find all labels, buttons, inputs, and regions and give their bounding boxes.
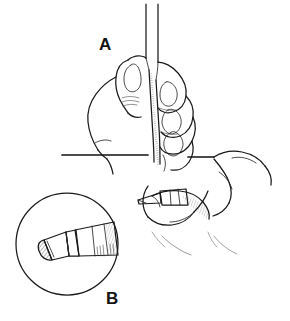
figure-container: A B (0, 0, 290, 321)
upper-hand-palm (88, 77, 116, 174)
horizontal-rule (62, 155, 214, 157)
inset-needle-detail (38, 222, 118, 260)
syringe-barrel (146, 4, 158, 80)
panel-label-a: A (99, 36, 111, 53)
upper-hand-thumb (116, 56, 146, 117)
injection-site (138, 189, 209, 220)
panel-label-b: B (106, 290, 118, 307)
illustration-canvas (0, 0, 290, 321)
syringe-shaft (149, 70, 160, 166)
upper-hand-fingers (158, 62, 195, 171)
